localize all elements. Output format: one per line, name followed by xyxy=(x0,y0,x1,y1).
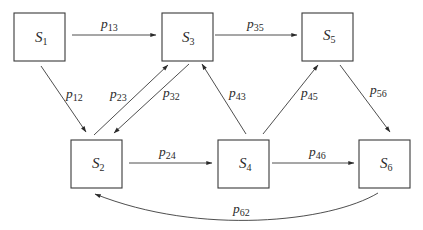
state-s6: S6 xyxy=(359,140,410,188)
state-diagram: S1 S3 S5 S2 S4 S6 p13 p12 p23 p32 p35 p4… xyxy=(0,0,423,230)
label-p13: p13 xyxy=(100,16,118,33)
label-p35: p35 xyxy=(246,16,264,33)
label-p62: p62 xyxy=(232,201,250,218)
state-s4: S4 xyxy=(218,140,269,188)
label-p24: p24 xyxy=(158,144,176,161)
state-s1: S1 xyxy=(14,13,65,61)
label-p12: p12 xyxy=(65,86,83,103)
label-p46: p46 xyxy=(308,144,326,161)
label-p32: p32 xyxy=(162,85,180,102)
state-s3: S3 xyxy=(162,13,213,61)
state-s5: S5 xyxy=(302,13,353,61)
state-s2: S2 xyxy=(71,140,122,188)
edge-s2-s3 xyxy=(94,65,168,135)
label-p23: p23 xyxy=(109,86,127,103)
label-p43: p43 xyxy=(228,85,246,102)
label-p56: p56 xyxy=(369,82,387,99)
label-p45: p45 xyxy=(300,85,318,102)
